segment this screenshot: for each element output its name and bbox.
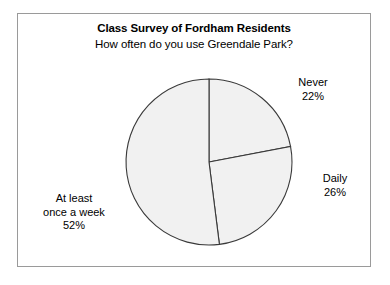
chart-subtitle: How often do you use Greendale Park? (17, 38, 371, 50)
pie-slice-weekly (126, 79, 219, 245)
pie-label-never: Never 22% (281, 76, 345, 103)
pie-label-weekly-line2: once a week (20, 206, 128, 220)
pie-slice-daily (209, 146, 292, 244)
chart-screenshot: Class Survey of Fordham Residents How of… (0, 0, 390, 285)
pie-label-weekly: At least once a week 52% (20, 192, 128, 233)
pie-slices (126, 79, 292, 245)
pie-label-daily-name: Daily (309, 172, 361, 186)
pie-label-weekly-value: 52% (20, 219, 128, 233)
pie-chart (118, 71, 300, 253)
pie-label-never-value: 22% (281, 90, 345, 104)
pie-label-daily-value: 26% (309, 186, 361, 200)
pie-label-never-name: Never (281, 76, 345, 90)
chart-title: Class Survey of Fordham Residents (17, 22, 371, 34)
pie-label-daily: Daily 26% (309, 172, 361, 199)
pie-label-weekly-line1: At least (20, 192, 128, 206)
